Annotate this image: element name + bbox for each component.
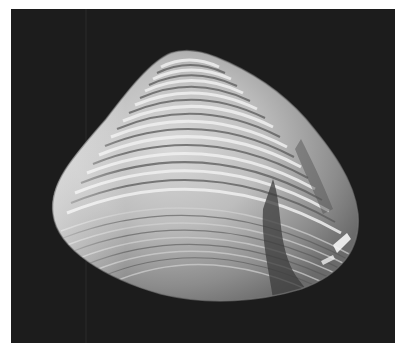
- shell-photo: Grayscale photograph of a bivalve clam s…: [11, 9, 395, 343]
- clam-shell-illustration: [11, 9, 395, 343]
